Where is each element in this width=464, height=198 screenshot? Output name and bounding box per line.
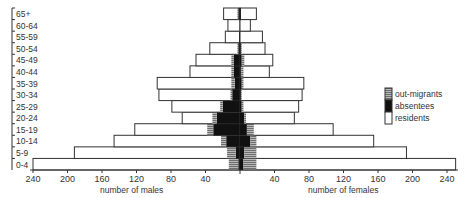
x-axis-title-males: number of males xyxy=(100,185,163,195)
x-tick-label-females: 160 xyxy=(370,174,385,184)
legend: out-migrantsabsenteesresidents xyxy=(385,88,442,124)
x-tick-label-males: 40 xyxy=(200,174,210,184)
bar-males-residents-5-9 xyxy=(74,147,240,159)
x-tick-label-males: 80 xyxy=(166,174,176,184)
bar-males-out-migrants-30-34 xyxy=(231,89,233,101)
bar-females-residents-30-34 xyxy=(240,89,302,101)
bar-males-out-migrants-25-29 xyxy=(220,101,223,113)
x-tick-label-males: 240 xyxy=(25,174,40,184)
legend-label-residents: residents xyxy=(395,113,430,123)
population-pyramid-chart: 0-45-910-1415-1920-2425-2930-3435-3940-4… xyxy=(0,0,464,198)
bar-females-residents-65+ xyxy=(240,8,256,20)
bar-males-out-migrants-20-24 xyxy=(212,112,216,124)
y-tick-label: 15-19 xyxy=(16,125,38,135)
bar-females-absentees-10-14 xyxy=(240,135,250,147)
x-tick-label-males: 120 xyxy=(129,174,144,184)
bar-males-absentees-20-24 xyxy=(217,112,240,124)
bar-males-residents-0-4 xyxy=(33,158,240,170)
bar-males-absentees-30-34 xyxy=(232,89,240,101)
legend-label-absentees: absentees xyxy=(395,101,434,111)
bar-males-out-migrants-35-39 xyxy=(231,77,234,89)
legend-swatch-out-migrants xyxy=(385,88,392,100)
bar-females-residents-25-29 xyxy=(240,101,299,113)
bar-females-absentees-45-49 xyxy=(240,54,242,66)
bar-males-absentees-35-39 xyxy=(235,77,240,89)
bar-females-absentees-30-34 xyxy=(240,89,241,101)
bar-males-residents-50-54 xyxy=(210,43,240,55)
bar-females-out-migrants-20-24 xyxy=(244,112,246,124)
bar-males-out-migrants-5-9 xyxy=(227,147,236,159)
x-tick-label-females: 240 xyxy=(439,174,454,184)
x-tick-label-females: 200 xyxy=(405,174,420,184)
bar-females-out-migrants-50-54 xyxy=(241,43,242,55)
bar-males-absentees-15-19 xyxy=(213,124,240,136)
y-tick-label: 25-29 xyxy=(16,102,38,112)
bar-males-out-migrants-10-14 xyxy=(221,135,226,147)
bar-males-absentees-45-49 xyxy=(234,54,240,66)
y-tick-label: 0-4 xyxy=(16,160,29,170)
bar-females-residents-35-39 xyxy=(240,77,304,89)
legend-swatch-residents xyxy=(385,112,392,124)
bar-males-out-migrants-65+ xyxy=(237,8,238,20)
bar-females-absentees-65+ xyxy=(240,8,241,20)
bar-females-out-migrants-25-29 xyxy=(242,101,244,113)
bar-males-absentees-10-14 xyxy=(226,135,240,147)
bar-females-out-migrants-45-49 xyxy=(242,54,245,66)
x-tick-label-males: 200 xyxy=(60,174,75,184)
y-tick-label: 35-39 xyxy=(16,79,38,89)
bar-females-out-migrants-15-19 xyxy=(247,124,254,136)
bar-males-residents-55-59 xyxy=(225,31,240,43)
bar-females-residents-0-4 xyxy=(240,158,456,170)
bar-males-residents-60-64 xyxy=(228,20,240,32)
bar-males-residents-35-39 xyxy=(157,77,240,89)
bar-females-residents-20-24 xyxy=(240,112,294,124)
bar-females-absentees-15-19 xyxy=(240,124,247,136)
x-tick-label-females: 80 xyxy=(304,174,314,184)
bar-males-absentees-5-9 xyxy=(236,147,240,159)
bar-females-out-migrants-30-34 xyxy=(241,89,242,101)
bar-females-residents-5-9 xyxy=(240,147,406,159)
bar-females-absentees-0-4 xyxy=(240,158,243,170)
x-tick-label-males: 160 xyxy=(94,174,109,184)
bar-females-absentees-50-54 xyxy=(240,43,241,55)
legend-label-out-migrants: out-migrants xyxy=(395,89,442,99)
bar-males-out-migrants-50-54 xyxy=(237,43,238,55)
bar-females-residents-40-44 xyxy=(240,66,269,78)
y-tick-label: 20-24 xyxy=(16,113,38,123)
bar-females-absentees-20-24 xyxy=(240,112,244,124)
x-tick-label-females: 120 xyxy=(336,174,351,184)
y-tick-label: 50-54 xyxy=(16,44,38,54)
bar-females-residents-15-19 xyxy=(240,124,333,136)
bar-females-out-migrants-10-14 xyxy=(250,135,256,147)
bar-females-residents-60-64 xyxy=(240,20,250,32)
bar-females-residents-50-54 xyxy=(240,43,265,55)
bar-females-out-migrants-5-9 xyxy=(244,147,256,159)
bar-males-absentees-40-44 xyxy=(234,66,240,78)
bar-females-residents-10-14 xyxy=(240,135,374,147)
bar-males-out-migrants-15-19 xyxy=(207,124,213,136)
legend-swatch-absentees xyxy=(385,100,392,112)
bar-females-residents-45-49 xyxy=(240,54,273,66)
bar-females-absentees-35-39 xyxy=(240,77,242,89)
x-axis-title-females: number of females xyxy=(308,185,378,195)
bar-females-absentees-40-44 xyxy=(240,66,241,78)
y-tick-label: 55-59 xyxy=(16,32,38,42)
y-tick-label: 65+ xyxy=(16,9,30,19)
y-tick-label: 30-34 xyxy=(16,90,38,100)
bar-males-out-migrants-0-4 xyxy=(229,158,238,170)
y-tick-label: 10-14 xyxy=(16,136,38,146)
bar-females-absentees-25-29 xyxy=(240,101,242,113)
bar-males-residents-30-34 xyxy=(159,89,240,101)
bar-females-out-migrants-35-39 xyxy=(242,77,244,89)
y-tick-label: 60-64 xyxy=(16,21,38,31)
y-tick-label: 45-49 xyxy=(16,55,38,65)
bar-females-out-migrants-0-4 xyxy=(243,158,256,170)
bar-females-residents-55-59 xyxy=(240,31,262,43)
bar-males-out-migrants-40-44 xyxy=(231,66,234,78)
x-tick-label-females: 40 xyxy=(269,174,279,184)
y-tick-label: 5-9 xyxy=(16,148,29,158)
bar-males-absentees-25-29 xyxy=(223,101,240,113)
bar-females-absentees-5-9 xyxy=(240,147,244,159)
bar-males-out-migrants-45-49 xyxy=(231,54,234,66)
bar-females-out-migrants-40-44 xyxy=(241,66,244,78)
